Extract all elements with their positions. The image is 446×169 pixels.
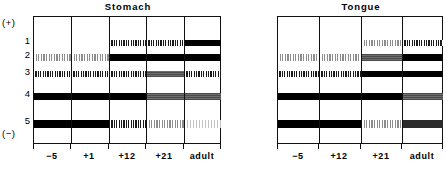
lane-label-stomach-0: −5	[33, 151, 71, 161]
band-row-label-5: 5	[12, 115, 30, 126]
gel-lane	[278, 17, 319, 143]
axis-negative-label: (−)	[2, 128, 15, 139]
panel-title-tongue: Tongue	[277, 1, 445, 12]
gel-band	[34, 54, 71, 61]
gel-band	[146, 93, 184, 100]
band-row-label-2: 2	[12, 49, 30, 60]
gel-band	[184, 54, 221, 61]
tickrow-tongue	[277, 144, 443, 149]
gel-band	[361, 120, 402, 128]
band-row-label-3: 3	[12, 66, 30, 77]
gel-band	[402, 40, 443, 46]
gel-lane	[71, 17, 109, 143]
axis-positive-label: (+)	[2, 17, 15, 28]
tick	[108, 144, 109, 149]
gel-band	[184, 40, 221, 46]
gel-band	[34, 71, 71, 77]
lane-label-stomach-3: +21	[145, 151, 183, 161]
gel-band	[278, 54, 319, 61]
tick	[401, 144, 402, 149]
gel-band	[278, 93, 319, 100]
gel-band	[34, 93, 71, 100]
lane-label-stomach-1: +1	[70, 151, 108, 161]
tick	[277, 144, 278, 149]
gel-band	[278, 120, 319, 128]
gel-band	[146, 54, 184, 61]
panel-title-stomach: Stomach	[33, 1, 223, 12]
gel-band	[146, 120, 184, 128]
lane-label-stomach-2: +12	[108, 151, 146, 161]
gel-band	[319, 120, 361, 128]
gel-band	[71, 71, 109, 77]
gel-lane	[361, 17, 402, 143]
gel-band	[361, 93, 402, 100]
gel-band	[71, 120, 109, 128]
gel-lane	[402, 17, 443, 143]
gel-band	[71, 54, 109, 61]
gel-band	[184, 93, 221, 100]
tick	[33, 144, 34, 149]
gel-band	[34, 120, 71, 128]
tick	[360, 144, 361, 149]
gel-lane	[319, 17, 361, 143]
lane-label-tongue-2: +21	[360, 151, 402, 161]
gel-band	[71, 93, 109, 100]
gel-stomach	[33, 16, 221, 144]
tick	[318, 144, 319, 149]
gel-band	[109, 71, 146, 77]
tickrow-stomach	[33, 144, 221, 149]
gel-band	[184, 71, 221, 77]
gel-band	[109, 54, 146, 61]
lane-label-tongue-3: adult	[401, 151, 443, 161]
gel-band	[402, 54, 443, 61]
gel-band	[109, 120, 146, 128]
lane-label-stomach-4: adult	[183, 151, 221, 161]
tick	[220, 144, 221, 149]
gel-lane	[34, 17, 71, 143]
gel-band	[361, 54, 402, 61]
gel-band	[402, 120, 443, 128]
band-row-label-1: 1	[12, 35, 30, 46]
gel-band	[109, 40, 146, 46]
tick	[442, 144, 443, 149]
gel-band	[402, 93, 443, 100]
gel-band	[319, 93, 361, 100]
gel-band	[319, 71, 361, 77]
gel-band	[361, 71, 402, 77]
lane-label-tongue-0: −5	[277, 151, 319, 161]
lane-label-tongue-1: +12	[318, 151, 360, 161]
gel-lane	[146, 17, 184, 143]
gel-band	[146, 40, 184, 46]
band-row-label-4: 4	[12, 88, 30, 99]
gel-band	[109, 93, 146, 100]
tick	[183, 144, 184, 149]
gel-band	[402, 71, 443, 77]
gel-lane	[109, 17, 146, 143]
figure-zymogram: (+) (−) 1 2 3 4 5 Stomach −5 +1 +12 +21 …	[0, 0, 446, 169]
gel-band	[146, 71, 184, 77]
tick	[145, 144, 146, 149]
panel-stomach: Stomach −5 +1 +12 +21 adult	[33, 0, 223, 169]
gel-band	[319, 54, 361, 61]
gel-band	[361, 40, 402, 46]
gel-lane	[184, 17, 221, 143]
gel-tongue	[277, 16, 443, 144]
panel-tongue: Tongue −5 +12 +21 adult	[277, 0, 445, 169]
gel-band	[184, 120, 221, 128]
tick	[70, 144, 71, 149]
gel-band	[278, 71, 319, 77]
